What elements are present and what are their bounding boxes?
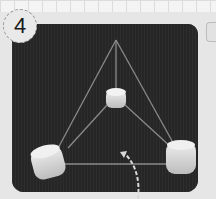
step-number-badge: 4 (3, 9, 37, 43)
next-panel-edge (206, 22, 216, 42)
